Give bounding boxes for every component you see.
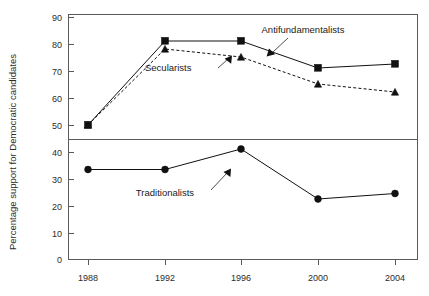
data-point-marker (315, 64, 322, 71)
annotation-leader-line (211, 173, 227, 190)
x-axis-ticks (89, 260, 396, 265)
annotation-label-antifundamentalists: Antifundamentalists (262, 24, 345, 35)
y-tick-label: 10 (52, 229, 62, 239)
y-axis-ticks (69, 18, 74, 260)
y-tick-label: 60 (52, 94, 62, 104)
data-point-marker (392, 190, 399, 197)
data-point-marker (238, 37, 245, 44)
y-tick-label: 30 (52, 175, 62, 185)
annotation-label-traditionalists: Traditionalists (136, 187, 195, 198)
data-point-marker (238, 146, 245, 153)
y-tick-label: 80 (52, 40, 62, 50)
annotation-leader-line (218, 59, 228, 68)
series-traditionalists (85, 146, 399, 203)
y-axis-title: Percentage support for Democratic candid… (7, 54, 18, 250)
x-tick-label: 1992 (155, 273, 175, 283)
data-point-marker (315, 196, 322, 203)
y-tick-label: 70 (52, 67, 62, 77)
y-axis-tick-labels: 90 80 70 60 50 40 30 20 10 0 (52, 13, 62, 265)
y-tick-label: 20 (52, 202, 62, 212)
y-tick-label: 40 (52, 148, 62, 158)
x-tick-label: 2000 (308, 273, 328, 283)
data-point-marker (162, 37, 169, 44)
annotation-label-secularists: Secularists (145, 62, 192, 73)
annotation-antifundamentalists: Antifundamentalists (262, 24, 345, 56)
y-tick-label: 90 (52, 13, 62, 23)
chart-svg: 90 80 70 60 50 40 30 20 10 0 1988 1992 1… (0, 0, 429, 296)
x-tick-label: 2004 (385, 273, 405, 283)
series-line-traditionalists (88, 149, 395, 199)
x-axis-tick-labels: 1988 1992 1996 2000 2004 (78, 273, 405, 283)
series-antifundamentalists (85, 37, 399, 128)
annotation-arrowhead-icon (225, 56, 232, 64)
data-point-marker (85, 166, 92, 173)
x-tick-label: 1996 (231, 273, 251, 283)
series-line-antifundamentalists (88, 41, 395, 125)
y-tick-label: 50 (52, 121, 62, 131)
annotation-traditionalists: Traditionalists (136, 169, 231, 199)
data-point-marker (391, 88, 398, 95)
data-point-marker (314, 80, 321, 87)
y-tick-label: 0 (57, 255, 62, 265)
data-point-marker (392, 60, 399, 67)
annotation-leader-line (273, 38, 288, 52)
annotation-secularists: Secularists (145, 56, 232, 74)
data-point-marker (162, 166, 169, 173)
plot-frame (69, 15, 418, 260)
series-secularists (84, 45, 398, 128)
x-tick-label: 1988 (78, 273, 98, 283)
chart-figure: 90 80 70 60 50 40 30 20 10 0 1988 1992 1… (0, 0, 429, 296)
